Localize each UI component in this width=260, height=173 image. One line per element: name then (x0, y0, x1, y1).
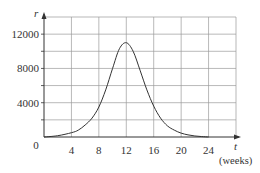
grid-lines (44, 17, 236, 137)
chart: 048121620244000800012000 r t (weeks) (0, 0, 260, 173)
x-tick-label: 8 (96, 144, 102, 156)
axes (41, 12, 241, 140)
y-axis-label: r (34, 7, 39, 19)
x-tick-label: 16 (148, 144, 160, 156)
x-axis-arrow-icon (234, 135, 241, 140)
x-tick-label: 24 (203, 144, 215, 156)
x-tick-label: 20 (176, 144, 188, 156)
x-tick-label: 12 (121, 144, 132, 156)
x-axis-unit-label: (weeks) (219, 155, 253, 167)
y-tick-label: 12000 (12, 28, 40, 40)
x-axis-label: t (234, 140, 238, 152)
y-tick-label: 8000 (17, 62, 40, 74)
y-axis-arrow-icon (42, 12, 47, 19)
origin-label: 0 (33, 139, 39, 151)
x-tick-label: 4 (69, 144, 75, 156)
y-tick-label: 4000 (17, 97, 40, 109)
